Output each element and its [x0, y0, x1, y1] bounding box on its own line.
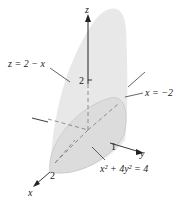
- plane-edge-label: x = −2: [144, 87, 173, 98]
- z-axis-label: z: [84, 4, 89, 15]
- leader-edge-top: [128, 72, 145, 87]
- y-axis-label: y: [139, 148, 145, 159]
- leader-edge: [125, 93, 143, 97]
- leader-plane: [50, 68, 70, 82]
- axis-x-back: [32, 118, 48, 122]
- plane-equation-label: z = 2 − x: [7, 58, 45, 69]
- x-tick-label: 2: [50, 170, 55, 181]
- x-axis-label: x: [27, 187, 33, 197]
- z-tick-label: 2: [79, 75, 84, 86]
- ellipse-equation-label: x² + 4y² = 4: [99, 163, 148, 174]
- diagram-canvas: z 2 y 1 x 2 z = 2 − x x = −2 x² + 4y² = …: [0, 0, 183, 197]
- y-tick-label: 1: [111, 141, 116, 152]
- z-axis-arrow-icon: [85, 14, 91, 22]
